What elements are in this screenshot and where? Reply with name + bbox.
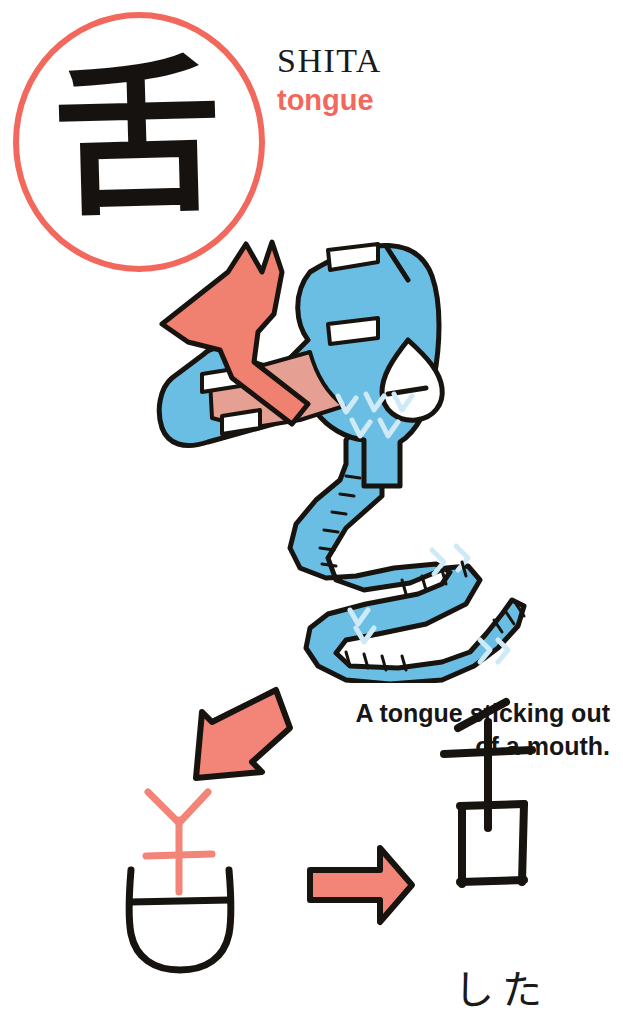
arrow-right-icon xyxy=(310,848,412,922)
creature-body-ribbon xyxy=(290,428,524,683)
flashcard-page: 舌 SHITA tongue xyxy=(0,0,623,1026)
mnemonic-illustration xyxy=(150,228,590,683)
pictograph-tongue xyxy=(146,792,212,892)
hiragana-reading: した xyxy=(432,958,572,1016)
ancient-pictograph xyxy=(129,792,231,970)
arrow-down-left-icon xyxy=(196,690,290,778)
romaji-reading: SHITA xyxy=(277,44,507,78)
tooth-upper-2 xyxy=(328,318,378,344)
tooth-lower-2 xyxy=(222,410,260,434)
heading-block: SHITA tongue xyxy=(277,44,507,115)
modern-kanji-drawing xyxy=(444,702,532,884)
english-meaning: tongue xyxy=(277,85,507,115)
kanji-brush-character: 舌 xyxy=(51,52,223,224)
